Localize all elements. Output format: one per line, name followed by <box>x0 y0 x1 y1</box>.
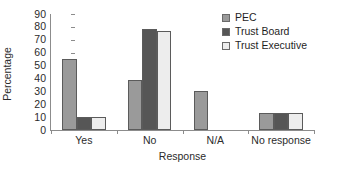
y-axis-tick-labels: 0102030405060708090 <box>24 12 46 130</box>
x-axis-tick-mark <box>248 130 249 134</box>
x-axis-title: Response <box>51 150 314 162</box>
bar <box>259 113 274 130</box>
legend-item: Trust Executive <box>222 39 338 52</box>
y-axis-tick-label: 40 <box>24 74 46 83</box>
legend-item-label: Trust Board <box>235 26 289 37</box>
x-axis-tick-labels: YesNoN/ANo response <box>51 134 314 148</box>
bar <box>157 31 172 130</box>
bar-group <box>62 14 106 130</box>
bar <box>288 113 303 130</box>
y-axis-tick-label: 20 <box>24 100 46 109</box>
legend-item: PEC <box>222 11 338 24</box>
legend-swatch-icon <box>222 28 230 36</box>
bar <box>194 91 209 130</box>
legend-item-label: Trust Executive <box>235 40 307 51</box>
bar-group <box>128 14 172 130</box>
chart-legend: PECTrust BoardTrust Executive <box>222 11 338 53</box>
legend-item-label: PEC <box>235 12 257 23</box>
x-axis-tick-label: No <box>117 134 183 147</box>
bar <box>77 117 92 130</box>
x-axis-tick-label: N/A <box>183 134 249 147</box>
x-axis-tick-label: Yes <box>51 134 117 147</box>
y-axis-tick-label: 80 <box>24 22 46 31</box>
legend-swatch-icon <box>222 14 230 22</box>
x-axis-tick-mark <box>117 130 118 134</box>
legend-item: Trust Board <box>222 25 338 38</box>
bar <box>142 29 157 130</box>
bar <box>128 80 143 130</box>
y-axis-tick-label: 10 <box>24 113 46 122</box>
bar <box>62 59 77 130</box>
x-axis-tick-mark <box>314 130 315 134</box>
y-axis-tick-label: 60 <box>24 48 46 57</box>
legend-swatch-icon <box>222 42 230 50</box>
bar <box>91 117 106 130</box>
y-axis-title: Percentage <box>1 26 15 122</box>
bar-chart: Percentage 0102030405060708090 YesNoN/AN… <box>0 0 341 171</box>
y-axis-tick-label: 50 <box>24 61 46 70</box>
y-axis-tick-label: 30 <box>24 87 46 96</box>
y-axis-tick-label: 0 <box>24 126 46 135</box>
bar <box>274 113 289 130</box>
y-axis-tick-label: 90 <box>24 10 46 19</box>
x-axis-tick-mark <box>183 130 184 134</box>
x-axis-tick-mark <box>51 130 52 134</box>
x-axis-tick-label: No response <box>248 134 314 147</box>
y-axis-tick-label: 70 <box>24 35 46 44</box>
